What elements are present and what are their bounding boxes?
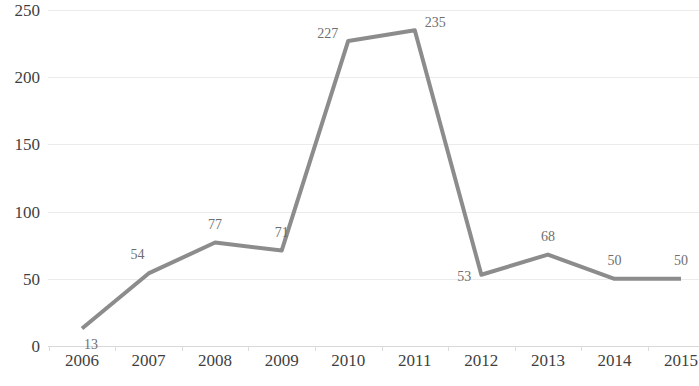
x-axis-tick (115, 346, 116, 351)
data-point-label: 68 (541, 230, 555, 244)
data-point-label: 77 (208, 218, 222, 232)
y-axis-tick-label: 250 (0, 2, 40, 19)
data-point-label: 50 (607, 254, 621, 268)
x-axis-tick (315, 346, 316, 351)
y-axis-tick-label: 50 (0, 270, 40, 287)
x-axis-tick (182, 346, 183, 351)
y-axis-tick-label: 150 (0, 136, 40, 153)
data-point-label: 54 (131, 248, 145, 262)
data-series-line (48, 10, 699, 346)
x-axis: 2006200720082009201020112012201320142015 (48, 352, 699, 382)
x-axis-tick (49, 346, 50, 351)
x-axis-tick (448, 346, 449, 351)
series-polyline (82, 30, 681, 328)
data-point-label: 50 (674, 254, 688, 268)
x-axis-tick (382, 346, 383, 351)
data-point-label: 227 (317, 27, 338, 41)
x-axis-line (48, 346, 699, 347)
x-axis-tick (648, 346, 649, 351)
data-point-label: 235 (425, 16, 446, 30)
x-axis-tick (515, 346, 516, 351)
plot-area: 1354777122723553685050 (48, 10, 699, 346)
x-axis-tick-label: 2011 (398, 352, 431, 369)
x-axis-tick-label: 2009 (265, 352, 299, 369)
x-axis-tick-label: 2013 (531, 352, 565, 369)
line-chart: 1354777122723553685050 050100150200250 2… (0, 0, 699, 386)
y-axis-tick-label: 200 (0, 69, 40, 86)
data-point-label: 53 (457, 270, 471, 284)
data-point-label: 71 (275, 226, 289, 240)
x-axis-tick (581, 346, 582, 351)
data-point-label: 13 (84, 338, 98, 352)
x-axis-tick-label: 2008 (198, 352, 232, 369)
x-axis-tick-label: 2010 (331, 352, 365, 369)
x-axis-tick-label: 2012 (464, 352, 498, 369)
y-axis-tick-label: 100 (0, 203, 40, 220)
x-axis-tick-label: 2006 (65, 352, 99, 369)
x-axis-tick-label: 2014 (597, 352, 631, 369)
x-axis-tick-label: 2015 (664, 352, 698, 369)
x-axis-tick (248, 346, 249, 351)
x-axis-tick-label: 2007 (132, 352, 166, 369)
y-axis-tick-label: 0 (0, 338, 40, 355)
